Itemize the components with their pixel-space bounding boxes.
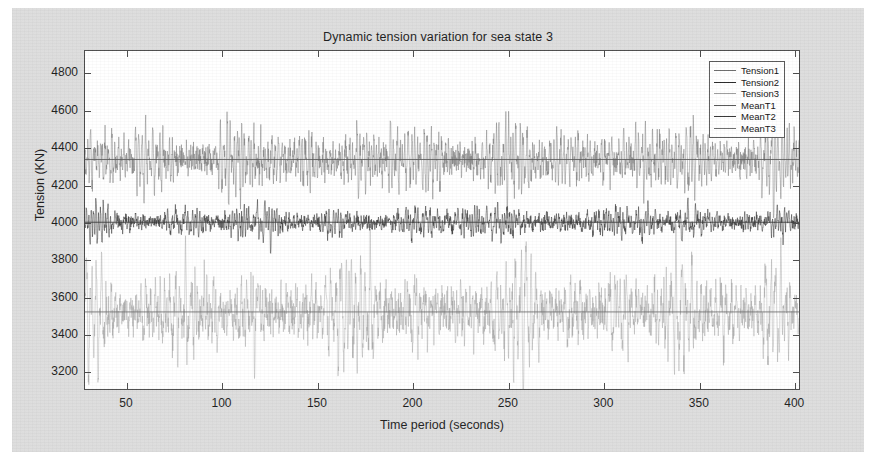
y-tick-mark-right bbox=[793, 73, 799, 74]
legend-label: MeanT1 bbox=[741, 100, 776, 112]
figure-panel: Dynamic tension variation for sea state … bbox=[12, 8, 864, 452]
legend-label: Tension2 bbox=[741, 77, 779, 89]
x-tick-mark-top bbox=[795, 51, 796, 57]
y-tick-label: 4800 bbox=[51, 65, 78, 79]
y-tick-mark bbox=[85, 335, 91, 336]
y-tick-mark bbox=[85, 148, 91, 149]
x-tick-label: 100 bbox=[211, 396, 231, 410]
legend-item: MeanT2 bbox=[714, 111, 779, 123]
y-tick-label: 4200 bbox=[51, 178, 78, 192]
x-tick-label: 250 bbox=[498, 396, 518, 410]
x-tick-mark bbox=[413, 383, 414, 389]
x-tick-labels: 50100150200250300350400 bbox=[84, 396, 800, 414]
series-line-tension3 bbox=[85, 224, 799, 389]
legend-item: MeanT1 bbox=[714, 100, 779, 112]
legend-line-swatch bbox=[714, 93, 736, 94]
y-tick-mark-right bbox=[793, 298, 799, 299]
legend-label: MeanT2 bbox=[741, 111, 776, 123]
y-tick-label: 4600 bbox=[51, 103, 78, 117]
y-tick-mark bbox=[85, 260, 91, 261]
y-tick-mark-right bbox=[793, 335, 799, 336]
y-tick-label: 3200 bbox=[51, 364, 78, 378]
y-tick-mark bbox=[85, 223, 91, 224]
y-tick-mark bbox=[85, 73, 91, 74]
x-axis-title: Time period (seconds) bbox=[84, 418, 800, 432]
x-tick-label: 50 bbox=[119, 396, 132, 410]
series-line-tension2 bbox=[85, 198, 799, 254]
x-tick-mark bbox=[700, 383, 701, 389]
y-tick-label: 3600 bbox=[51, 290, 78, 304]
legend-line-swatch bbox=[714, 105, 736, 106]
series-line-tension1 bbox=[85, 99, 799, 219]
x-tick-mark-top bbox=[222, 51, 223, 57]
legend-item: MeanT3 bbox=[714, 123, 779, 135]
x-tick-mark-top bbox=[318, 51, 319, 57]
x-tick-mark bbox=[604, 383, 605, 389]
y-tick-mark bbox=[85, 186, 91, 187]
legend-line-swatch bbox=[714, 82, 736, 83]
x-tick-mark-top bbox=[509, 51, 510, 57]
y-tick-label: 3800 bbox=[51, 252, 78, 266]
x-tick-mark bbox=[509, 383, 510, 389]
x-tick-mark bbox=[222, 383, 223, 389]
x-tick-label: 350 bbox=[689, 396, 709, 410]
x-tick-label: 300 bbox=[593, 396, 613, 410]
legend-label: MeanT3 bbox=[741, 123, 776, 135]
x-tick-label: 200 bbox=[402, 396, 422, 410]
x-tick-mark-top bbox=[413, 51, 414, 57]
y-tick-mark-right bbox=[793, 111, 799, 112]
legend-item: Tension3 bbox=[714, 88, 779, 100]
y-tick-labels: 320034003600380040004200440046004800 bbox=[12, 50, 78, 390]
legend-label: Tension1 bbox=[741, 65, 779, 77]
y-tick-mark bbox=[85, 298, 91, 299]
x-tick-mark bbox=[127, 383, 128, 389]
x-tick-mark bbox=[795, 383, 796, 389]
y-tick-mark bbox=[85, 372, 91, 373]
x-tick-mark-top bbox=[127, 51, 128, 57]
y-tick-mark-right bbox=[793, 372, 799, 373]
x-tick-mark bbox=[318, 383, 319, 389]
series-canvas bbox=[85, 51, 799, 389]
y-tick-mark-right bbox=[793, 148, 799, 149]
legend-line-swatch bbox=[714, 70, 736, 71]
x-tick-label: 400 bbox=[784, 396, 804, 410]
legend-item: Tension2 bbox=[714, 77, 779, 89]
x-tick-mark-top bbox=[700, 51, 701, 57]
y-tick-mark-right bbox=[793, 186, 799, 187]
y-tick-mark-right bbox=[793, 223, 799, 224]
legend-label: Tension3 bbox=[741, 88, 779, 100]
y-tick-mark-right bbox=[793, 260, 799, 261]
y-tick-label: 3400 bbox=[51, 327, 78, 341]
legend-line-swatch bbox=[714, 128, 736, 129]
y-tick-mark bbox=[85, 111, 91, 112]
y-tick-label: 4000 bbox=[51, 215, 78, 229]
figure-root: Dynamic tension variation for sea state … bbox=[0, 0, 876, 467]
legend: Tension1Tension2Tension3MeanT1MeanT2Mean… bbox=[709, 61, 785, 138]
x-tick-label: 150 bbox=[307, 396, 327, 410]
legend-item: Tension1 bbox=[714, 65, 779, 77]
x-tick-mark-top bbox=[604, 51, 605, 57]
legend-line-swatch bbox=[714, 116, 736, 117]
plot-axes: Tension1Tension2Tension3MeanT1MeanT2Mean… bbox=[84, 50, 800, 390]
chart-title: Dynamic tension variation for sea state … bbox=[12, 30, 864, 44]
y-tick-label: 4400 bbox=[51, 140, 78, 154]
